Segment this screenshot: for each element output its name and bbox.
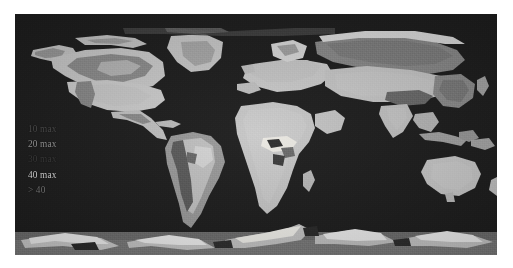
legend-item-2: 30 max — [28, 152, 112, 167]
legend-item-3: 40 max — [28, 168, 112, 183]
legend-item-1: 20 max — [28, 137, 112, 152]
region-south-america — [165, 132, 225, 228]
region-antarctica — [15, 224, 497, 255]
page-root: 10 max 20 max 30 max 40 max > 40 — [0, 0, 513, 268]
legend-label-4: > 40 — [28, 185, 45, 195]
legend-label-2: 30 max — [28, 154, 57, 164]
legend-item-4: > 40 — [28, 183, 112, 198]
legend-label-3: 40 max — [28, 170, 57, 180]
region-arctic-top — [123, 28, 335, 36]
legend-item-0: 10 max — [28, 122, 112, 137]
region-asia — [315, 31, 495, 150]
region-australia — [421, 156, 497, 202]
legend-label-1: 20 max — [28, 139, 57, 149]
map-legend: 10 max 20 max 30 max 40 max > 40 — [28, 122, 112, 198]
world-map-figure[interactable]: 10 max 20 max 30 max 40 max > 40 — [15, 14, 497, 255]
legend-label-0: 10 max — [28, 124, 57, 134]
region-africa — [235, 102, 345, 214]
